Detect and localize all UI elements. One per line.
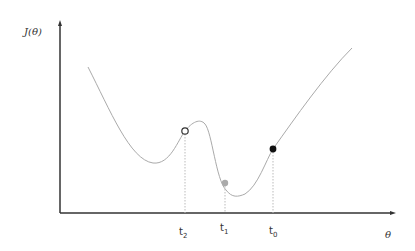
tick-t0: t0	[269, 225, 277, 239]
point-t1-grey	[222, 180, 228, 186]
tick-t2: t2	[179, 226, 187, 240]
guide-lines	[185, 134, 273, 213]
x-axis-arrow-icon	[390, 211, 396, 215]
point-t0-filled	[270, 146, 277, 153]
tick-t1: t1	[220, 222, 228, 236]
axes	[58, 20, 396, 215]
y-axis-arrow-icon	[58, 20, 62, 26]
cost-curve	[88, 48, 352, 196]
y-axis-label: J(θ)	[24, 26, 42, 37]
cost-function-diagram	[0, 0, 415, 251]
x-axis-label: θ	[385, 229, 391, 240]
point-t2-open	[182, 128, 188, 134]
